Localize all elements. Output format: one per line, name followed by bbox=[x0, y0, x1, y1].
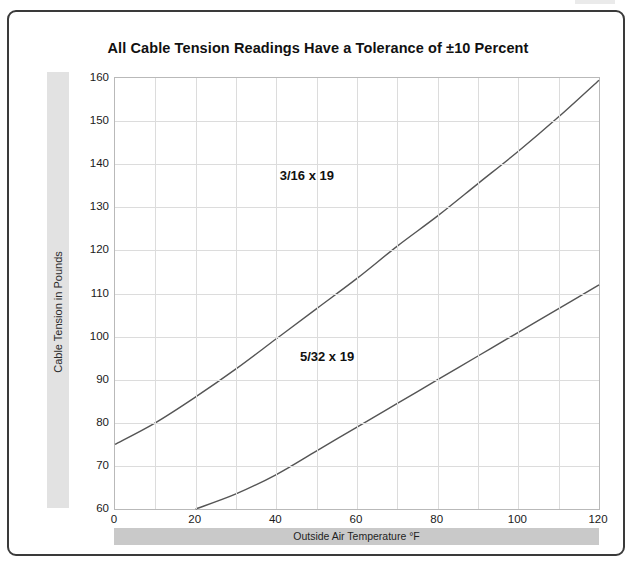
y-tick-label: 110 bbox=[75, 287, 109, 299]
x-tick-label: 20 bbox=[165, 513, 225, 525]
y-axis-title: Cable Tension in Pounds bbox=[47, 94, 69, 530]
y-tick-label: 150 bbox=[75, 114, 109, 126]
y-tick-label: 130 bbox=[75, 200, 109, 212]
plot-area bbox=[114, 77, 600, 510]
y-tick-label: 90 bbox=[75, 373, 109, 385]
x-axis-title: Outside Air Temperature °F bbox=[114, 528, 599, 545]
figure-frame: All Cable Tension Readings Have a Tolera… bbox=[7, 10, 625, 556]
series-annotation-label: 5/32 x 19 bbox=[300, 349, 354, 364]
gridline-vertical bbox=[438, 78, 439, 509]
gridline-vertical bbox=[236, 78, 237, 509]
series-annotation-label: 3/16 x 19 bbox=[280, 168, 334, 183]
gridline-vertical bbox=[397, 78, 398, 509]
gridline-vertical bbox=[276, 78, 277, 509]
gridline-vertical bbox=[196, 78, 197, 509]
gridline-vertical bbox=[317, 78, 318, 509]
y-tick-label: 120 bbox=[75, 243, 109, 255]
gridline-vertical bbox=[478, 78, 479, 509]
y-axis-tick-labels: 60708090100110120130140150160 bbox=[71, 77, 109, 508]
y-tick-label: 80 bbox=[75, 416, 109, 428]
scan-edge-artifact bbox=[575, 0, 615, 4]
x-tick-label: 40 bbox=[245, 513, 305, 525]
y-tick-label: 160 bbox=[75, 71, 109, 83]
x-axis-tick-labels: 020406080100120 bbox=[114, 513, 598, 527]
x-tick-label: 100 bbox=[487, 513, 547, 525]
gridline-vertical bbox=[559, 78, 560, 509]
y-tick-label: 70 bbox=[75, 459, 109, 471]
y-tick-label: 100 bbox=[75, 330, 109, 342]
x-tick-label: 60 bbox=[326, 513, 386, 525]
gridline-vertical bbox=[357, 78, 358, 509]
y-tick-label: 140 bbox=[75, 157, 109, 169]
x-tick-label: 80 bbox=[407, 513, 467, 525]
x-tick-label: 120 bbox=[568, 513, 628, 525]
chart-title: All Cable Tension Readings Have a Tolera… bbox=[9, 40, 627, 56]
gridline-vertical bbox=[518, 78, 519, 509]
x-tick-label: 0 bbox=[84, 513, 144, 525]
gridline-vertical bbox=[155, 78, 156, 509]
